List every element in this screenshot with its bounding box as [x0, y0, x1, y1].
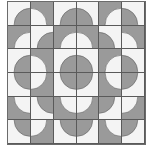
- quarter-circle-icon: [122, 26, 144, 49]
- tile-r0-c5: [122, 2, 145, 26]
- quarter-circle-icon: [122, 49, 144, 72]
- quarter-circle-icon: [77, 2, 99, 25]
- quarter-circle-icon: [99, 73, 121, 96]
- quarter-circle-icon: [77, 26, 99, 49]
- quarter-circle-icon: [8, 120, 30, 143]
- tile-r2-c0: [8, 49, 31, 73]
- quarter-circle-icon: [54, 2, 76, 25]
- quarter-circle-icon: [122, 120, 144, 143]
- quarter-circle-icon: [54, 73, 76, 96]
- tile-r1-c3: [77, 26, 100, 50]
- tile-r2-c3: [77, 49, 100, 73]
- tile-r0-c0: [8, 2, 31, 26]
- tile-r0-c1: [31, 2, 54, 26]
- tile-r2-c2: [54, 49, 77, 73]
- tile-r3-c2: [54, 73, 77, 97]
- tile-r3-c5: [122, 73, 145, 97]
- quarter-circle-icon: [31, 97, 53, 120]
- tile-r4-c1: [31, 97, 54, 121]
- quarter-circle-icon: [31, 26, 53, 49]
- quarter-circle-icon: [54, 49, 76, 72]
- quarter-circle-icon: [8, 49, 30, 72]
- quarter-circle-icon: [54, 97, 76, 120]
- tile-r4-c3: [77, 97, 100, 121]
- tile-r5-c1: [31, 120, 54, 144]
- quarter-circle-icon: [31, 120, 53, 143]
- tile-r2-c1: [31, 49, 54, 73]
- quarter-circle-icon: [99, 120, 121, 143]
- quarter-circle-icon: [122, 97, 144, 120]
- tile-r4-c5: [122, 97, 145, 121]
- tile-r3-c4: [99, 73, 122, 97]
- quarter-circle-tile-grid: [7, 1, 146, 145]
- tile-r3-c3: [77, 73, 100, 97]
- tile-r1-c5: [122, 26, 145, 50]
- quarter-circle-icon: [8, 97, 30, 120]
- quarter-circle-icon: [77, 97, 99, 120]
- quarter-circle-icon: [8, 2, 30, 25]
- tile-r0-c2: [54, 2, 77, 26]
- tile-r4-c0: [8, 97, 31, 121]
- quarter-circle-icon: [99, 2, 121, 25]
- tile-r1-c2: [54, 26, 77, 50]
- tile-r5-c5: [122, 120, 145, 144]
- quarter-circle-icon: [31, 2, 53, 25]
- quarter-circle-icon: [99, 49, 121, 72]
- tile-r5-c3: [77, 120, 100, 144]
- quarter-circle-icon: [54, 26, 76, 49]
- tile-r4-c4: [99, 97, 122, 121]
- tile-r1-c1: [31, 26, 54, 50]
- quarter-circle-icon: [8, 73, 30, 96]
- tile-r3-c0: [8, 73, 31, 97]
- tile-r0-c3: [77, 2, 100, 26]
- quarter-circle-icon: [77, 120, 99, 143]
- tile-r1-c4: [99, 26, 122, 50]
- quarter-circle-icon: [77, 49, 99, 72]
- quarter-circle-icon: [122, 73, 144, 96]
- tile-r0-c4: [99, 2, 122, 26]
- tile-r4-c2: [54, 97, 77, 121]
- quarter-circle-icon: [54, 120, 76, 143]
- tile-r5-c0: [8, 120, 31, 144]
- quarter-circle-icon: [31, 73, 53, 96]
- quarter-circle-icon: [77, 73, 99, 96]
- quarter-circle-icon: [99, 26, 121, 49]
- tile-r5-c2: [54, 120, 77, 144]
- quarter-circle-icon: [99, 97, 121, 120]
- quarter-circle-icon: [31, 49, 53, 72]
- tile-r1-c0: [8, 26, 31, 50]
- tile-r2-c4: [99, 49, 122, 73]
- quarter-circle-icon: [122, 2, 144, 25]
- tile-r3-c1: [31, 73, 54, 97]
- quarter-circle-icon: [8, 26, 30, 49]
- tile-r2-c5: [122, 49, 145, 73]
- tile-r5-c4: [99, 120, 122, 144]
